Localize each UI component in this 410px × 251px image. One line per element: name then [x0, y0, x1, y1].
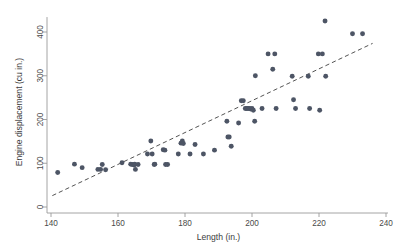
data-point: [100, 162, 105, 167]
y-tick-label: 0: [36, 204, 45, 209]
data-point: [260, 106, 265, 111]
data-point: [274, 106, 279, 111]
x-tick-label: 240: [379, 219, 393, 228]
data-point: [253, 73, 258, 78]
x-tick-label: 140: [44, 219, 58, 228]
data-point: [193, 142, 198, 147]
data-point: [270, 67, 275, 72]
data-point: [162, 148, 167, 153]
data-point: [236, 121, 241, 126]
data-point: [201, 152, 206, 157]
regression-fit-line: [52, 43, 372, 195]
data-point: [360, 31, 365, 36]
data-point: [251, 108, 256, 113]
data-point: [252, 119, 257, 124]
y-axis-title: Engine displacement (cu in.): [14, 58, 24, 167]
data-point: [188, 152, 193, 157]
data-point: [306, 74, 311, 79]
axes: [43, 17, 388, 217]
data-point: [98, 167, 103, 172]
data-point: [148, 138, 153, 143]
data-point: [291, 97, 296, 102]
data-point: [55, 170, 60, 175]
data-point: [120, 160, 125, 165]
y-tick-label: 300: [36, 68, 45, 82]
data-point: [145, 152, 150, 157]
data-point: [176, 152, 181, 157]
y-tick-label: 400: [36, 25, 45, 39]
data-point: [307, 106, 312, 111]
data-point: [133, 167, 138, 172]
data-point: [181, 141, 186, 146]
data-point: [136, 162, 141, 167]
data-point: [290, 74, 295, 79]
data-point: [72, 162, 77, 167]
data-point: [165, 162, 170, 167]
x-tick-label: 180: [178, 219, 192, 228]
x-tick-label: 220: [312, 219, 326, 228]
data-point: [103, 167, 108, 172]
data-point: [323, 74, 328, 79]
x-tick-label: 160: [111, 219, 125, 228]
data-point: [212, 148, 217, 153]
data-point: [320, 51, 325, 56]
data-point: [317, 108, 322, 113]
data-point: [293, 106, 298, 111]
data-points: [55, 19, 365, 175]
data-point: [227, 135, 232, 140]
data-point: [272, 51, 277, 56]
fit-line: [52, 43, 372, 195]
data-point: [350, 31, 355, 36]
y-tick-label: 200: [36, 112, 45, 126]
scatter-plot: 1401601802002202400100200300400Length (i…: [0, 0, 410, 251]
data-point: [80, 165, 85, 170]
data-point: [241, 98, 246, 103]
data-point: [323, 19, 328, 24]
data-point: [266, 51, 271, 56]
data-point: [229, 144, 234, 149]
chart-container: 1401601802002202400100200300400Length (i…: [0, 0, 410, 251]
axis-labels: 1401601802002202400100200300400Length (i…: [14, 25, 393, 242]
data-point: [150, 152, 155, 157]
data-point: [152, 162, 157, 167]
y-tick-label: 100: [36, 156, 45, 170]
data-point: [224, 119, 229, 124]
x-axis-title: Length (in.): [197, 232, 241, 242]
x-tick-label: 200: [245, 219, 259, 228]
